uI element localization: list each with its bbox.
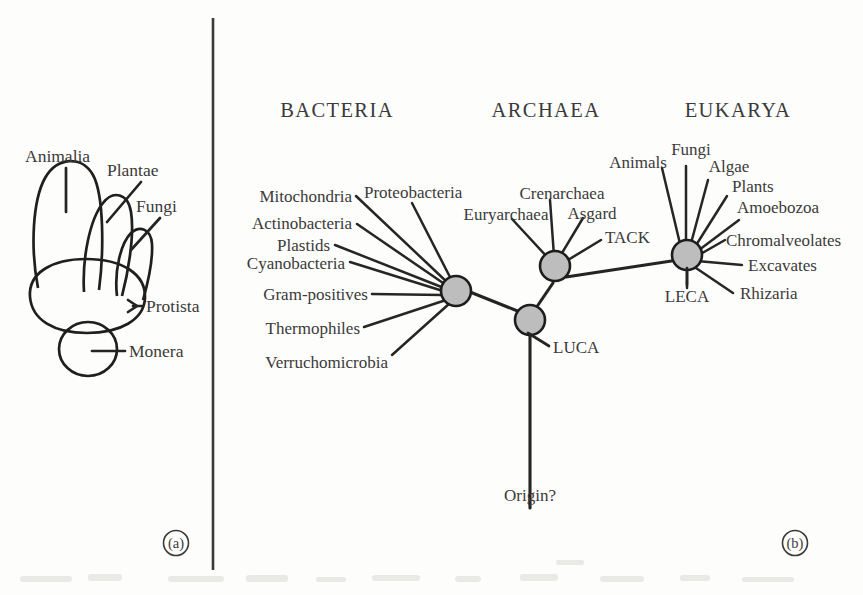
tip-label-verruchomicrobia: Verruchomicrobia — [265, 353, 388, 372]
branch-luca-to-bacteria — [465, 290, 520, 312]
branch-archaea-to-leca — [566, 260, 678, 277]
tip-label-excavates: Excavates — [748, 256, 817, 275]
tip-label-amoebozoa: Amoebozoa — [737, 198, 820, 217]
branch-luca-to-archaea — [536, 283, 553, 308]
tip-label-euryarchaea: Euryarchaea — [464, 205, 549, 224]
branch-crenarchaea — [550, 200, 554, 256]
branch-verruchomicrobia — [392, 303, 450, 355]
figure-canvas: Animalia Plantae Fungi Protista Monera (… — [0, 0, 863, 595]
node-bacteria — [441, 276, 471, 306]
branch-actinobacteria — [357, 224, 446, 285]
panel-a: Animalia Plantae Fungi Protista Monera (… — [25, 146, 200, 556]
node-label-leca: LECA — [665, 287, 710, 306]
tip-label-fungi: Fungi — [671, 140, 711, 159]
tip-label-animals: Animals — [609, 153, 667, 172]
tip-label-plants: Plants — [732, 177, 774, 196]
label-animalia: Animalia — [25, 146, 90, 166]
label-fungi: Fungi — [136, 196, 177, 216]
branch-animals — [662, 168, 681, 248]
tip-label-mitochondria: Mitochondria — [259, 187, 352, 206]
tip-label-tack: TACK — [605, 228, 651, 247]
label-plantae: Plantae — [107, 160, 159, 180]
tip-label-rhizaria: Rhizaria — [740, 284, 798, 303]
tip-label-algae: Algae — [709, 157, 750, 176]
node-luca — [515, 305, 545, 335]
panel-b-marker: (b) — [783, 531, 808, 556]
panel-a-marker: (a) — [164, 531, 189, 556]
tip-label-chromalveolates: Chromalveolates — [726, 231, 841, 250]
tip-label-proteobacteria: Proteobacteria — [364, 183, 463, 202]
fungi-leader — [131, 218, 160, 250]
scan-artifacts — [20, 560, 794, 582]
panel-b-letter: (b) — [787, 535, 804, 552]
domain-header-bacteria: BACTERIA — [280, 99, 394, 121]
domain-header-archaea: ARCHAEA — [492, 99, 601, 121]
node-archaea — [540, 251, 570, 281]
branch-algae — [690, 180, 708, 247]
plantae-shape — [84, 195, 132, 296]
branch-mitochondria — [356, 196, 448, 283]
domain-header-eukarya: EUKARYA — [685, 99, 792, 121]
label-protista: Protista — [146, 296, 200, 316]
branch-euryarchaea — [512, 219, 549, 259]
eukarya-branches — [662, 166, 742, 293]
panel-a-letter: (a) — [168, 535, 184, 552]
tip-label-crenarchaea: Crenarchaea — [520, 184, 605, 203]
tip-label-thermophiles: Thermophiles — [266, 319, 360, 338]
branch-plastids — [335, 245, 444, 288]
tip-label-cyanobacteria: Cyanobacteria — [247, 254, 346, 273]
panel-b: BACTERIA ARCHAEA EUKARYA — [247, 99, 841, 556]
branch-thermophiles — [364, 300, 446, 327]
tip-label-asgard: Asgard — [567, 204, 617, 223]
node-label-origin: Origin? — [504, 486, 556, 505]
tip-label-plastids: Plastids — [277, 236, 330, 255]
tip-label-actinobacteria: Actinobacteria — [252, 214, 353, 233]
node-label-luca: LUCA — [553, 338, 600, 357]
label-monera: Monera — [129, 341, 184, 361]
tip-label-gram-positives: Gram-positives — [263, 285, 368, 304]
node-leca — [672, 240, 702, 270]
branch-excavates — [697, 261, 742, 265]
branch-gram-positives — [372, 294, 442, 295]
